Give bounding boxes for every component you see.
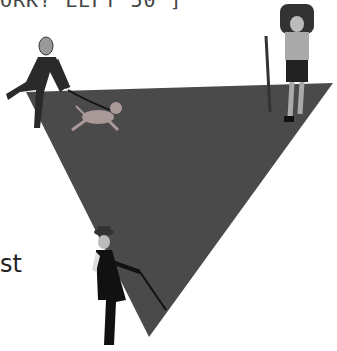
- triangle-illustration: [0, 0, 337, 351]
